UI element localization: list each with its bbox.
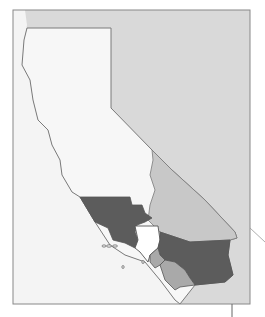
- edge-line: [250, 228, 265, 242]
- california-county-map: [0, 0, 265, 317]
